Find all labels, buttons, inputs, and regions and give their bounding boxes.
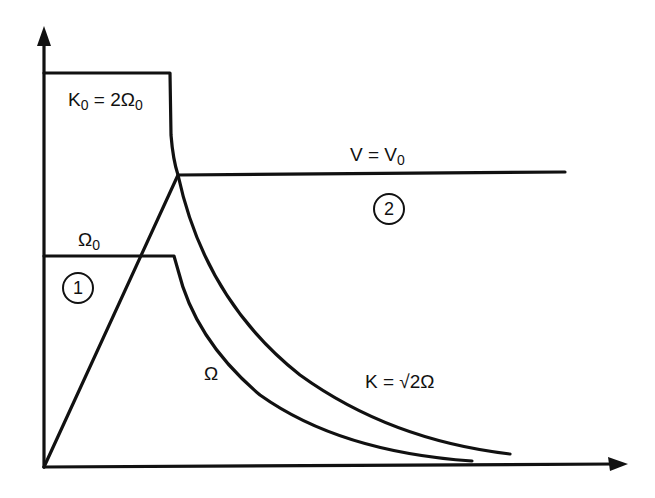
region-2-marker: 2 bbox=[373, 193, 405, 225]
k0-label: K0 = 2Ω0 bbox=[68, 90, 143, 112]
y-axis-arrow-icon bbox=[37, 26, 51, 46]
k-curve-label: K = √2Ω bbox=[365, 372, 435, 391]
v0-label: V = V0 bbox=[350, 145, 405, 167]
x-axis bbox=[44, 464, 615, 467]
x-axis-arrow-icon bbox=[608, 457, 628, 471]
omega-label: Ω bbox=[204, 364, 218, 383]
diagram-canvas: K0 = 2Ω0 V = V0 Ω0 Ω K = √2Ω 1 2 bbox=[0, 0, 655, 498]
omega0-label: Ω0 bbox=[78, 230, 100, 252]
region-1-marker: 1 bbox=[62, 272, 94, 304]
k-curve bbox=[44, 73, 510, 454]
